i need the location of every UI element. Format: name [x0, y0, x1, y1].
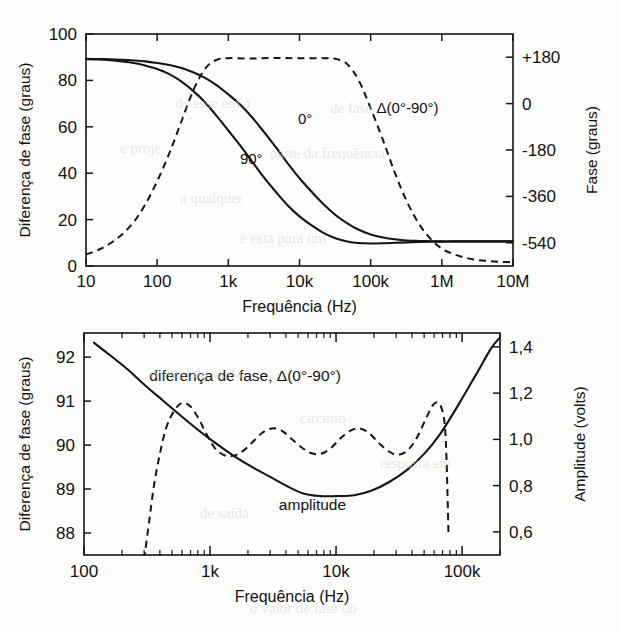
bottom-plot-frame: [84, 333, 500, 555]
x-tick-label: 1k: [219, 272, 237, 291]
y-tick-label: 20: [58, 211, 77, 230]
top-yaxis-title: Diferença de fase (graus): [16, 63, 33, 238]
series-curve-090: [86, 58, 513, 262]
x-tick-label: 10k: [286, 272, 314, 291]
y-tick-label: 90: [56, 436, 75, 455]
y2-tick-label: +180: [522, 48, 560, 67]
series-curve-diferenadefase090: [144, 402, 448, 559]
series-label-090: Δ(0°-90°): [377, 99, 439, 116]
y-tick-label: 60: [58, 118, 77, 137]
chart-annotation: diferença de fase, Δ(0°-90°): [149, 367, 341, 384]
top-chart-figure: 101001k10k100k1M10M020406080100+1800-180…: [0, 0, 619, 320]
x-tick-label: 10: [77, 272, 96, 291]
x-tick-label: 10M: [496, 272, 529, 291]
series-curve-90: [86, 59, 513, 243]
y2-tick-label: -180: [522, 141, 556, 160]
bottom-xaxis-title: Frequência (Hz): [235, 588, 350, 605]
y2-tick-label: 0: [522, 95, 531, 114]
y-tick-label: 89: [56, 480, 75, 499]
top-xaxis-title: Frequência (Hz): [242, 298, 357, 315]
bottom-chart-svg: 1001k10k100k88899091920,60,81,01,21,4dif…: [0, 320, 619, 631]
y2-tick-label: 1,4: [509, 338, 533, 357]
top-y2axis-title: Fase (graus): [583, 106, 600, 194]
bottom-y2axis-title: Amplitude (volts): [571, 386, 588, 501]
x-tick-label: 100: [143, 272, 171, 291]
y2-tick-label: 1,0: [509, 430, 533, 449]
y2-tick-label: 1,2: [509, 384, 533, 403]
bottom-yaxis-title: Diferença de fase (graus): [16, 357, 33, 532]
x-tick-label: 100: [70, 562, 98, 581]
y-tick-label: 88: [56, 524, 75, 543]
bottom-chart-figure: 1001k10k100k88899091920,60,81,01,21,4dif…: [0, 320, 619, 631]
y-tick-label: 40: [58, 164, 77, 183]
series-curve-0: [86, 59, 513, 242]
series-curve-amplitude: [94, 337, 500, 496]
top-plot-frame: [86, 34, 513, 266]
chart-annotation: amplitude: [279, 496, 346, 513]
figure-page: 101001k10k100k1M10M020406080100+1800-180…: [0, 0, 619, 631]
y-tick-label: 0: [68, 257, 77, 276]
y2-tick-label: -540: [522, 234, 556, 253]
x-tick-label: 100k: [352, 272, 389, 291]
y-tick-label: 91: [56, 392, 75, 411]
x-tick-label: 10k: [322, 562, 350, 581]
y-tick-label: 80: [58, 71, 77, 90]
x-tick-label: 100k: [444, 562, 481, 581]
y2-tick-label: 0,8: [509, 477, 533, 496]
x-tick-label: 1k: [201, 562, 219, 581]
top-chart-svg: 101001k10k100k1M10M020406080100+1800-180…: [0, 0, 619, 320]
series-label-0: 0°: [298, 110, 312, 127]
series-label-90: 90°: [240, 150, 263, 167]
x-tick-label: 1M: [430, 272, 454, 291]
y-tick-label: 100: [49, 25, 77, 44]
y2-tick-label: -360: [522, 187, 556, 206]
y-tick-label: 92: [56, 348, 75, 367]
y2-tick-label: 0,6: [509, 523, 533, 542]
